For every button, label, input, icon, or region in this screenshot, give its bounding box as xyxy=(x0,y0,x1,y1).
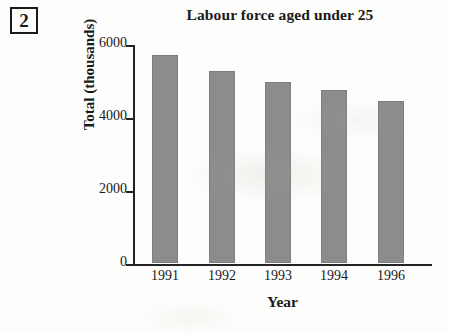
question-number-label: 2 xyxy=(19,11,29,30)
bar-1994 xyxy=(321,90,347,263)
y-axis-title: Total (thousands) xyxy=(81,0,98,170)
y-tick-label: 0 xyxy=(120,255,127,269)
x-tick-label-1996: 1996 xyxy=(361,269,421,283)
y-tick-label: 2000 xyxy=(99,182,127,196)
x-axis-line xyxy=(133,264,432,266)
bar-1991 xyxy=(152,55,178,263)
y-tick-label: 6000 xyxy=(99,36,127,50)
worksheet-page: 2 Labour force aged under 25 Total (thou… xyxy=(0,0,449,333)
x-axis-title: Year xyxy=(133,293,432,311)
x-tick-label-1992: 1992 xyxy=(192,269,252,283)
y-tick-mark xyxy=(126,118,134,120)
y-tick-mark xyxy=(126,45,134,47)
bar-1996 xyxy=(378,101,404,263)
x-tick-label-1994: 1994 xyxy=(304,269,364,283)
bar-1992 xyxy=(209,71,235,263)
x-tick-label-1991: 1991 xyxy=(135,269,195,283)
y-tick-mark xyxy=(126,191,134,193)
question-number-box: 2 xyxy=(10,7,38,34)
y-tick-mark xyxy=(126,264,134,266)
y-axis-line xyxy=(133,45,135,266)
y-tick-label: 4000 xyxy=(99,109,127,123)
bar-1993 xyxy=(265,82,291,263)
chart-title: Labour force aged under 25 xyxy=(120,6,440,24)
bar-chart-plot-area: 6000 4000 2000 0 1991 1992 1993 1994 199… xyxy=(133,45,432,265)
x-tick-label-1993: 1993 xyxy=(248,269,308,283)
